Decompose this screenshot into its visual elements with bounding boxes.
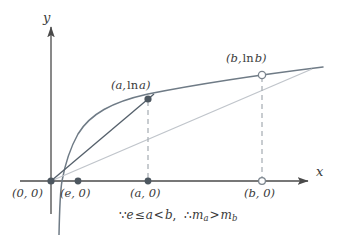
caption-e: e bbox=[127, 208, 134, 222]
paren-close: ) bbox=[262, 51, 267, 65]
y-axis-label: y bbox=[43, 10, 50, 25]
therefore-symbol: ∴ bbox=[184, 208, 192, 222]
slope-m-a-subscript: a bbox=[203, 213, 208, 223]
point-marker-e-axis bbox=[75, 178, 82, 185]
ln-argument-b: b bbox=[255, 51, 262, 65]
leq-symbol: ≤ bbox=[134, 208, 146, 222]
ln-operator: ln bbox=[242, 51, 255, 65]
point-label-b-curve: (b,lnb) bbox=[226, 51, 267, 65]
secant-line-b bbox=[51, 69, 312, 181]
comma: , bbox=[238, 51, 242, 65]
paren-close: ) bbox=[146, 78, 151, 92]
because-symbol: ∵ bbox=[119, 208, 127, 222]
tick-label-b: (b, 0) bbox=[244, 186, 275, 200]
caption-comma: , bbox=[173, 208, 177, 222]
lt-symbol: < bbox=[153, 208, 165, 222]
var-b: b bbox=[231, 51, 238, 65]
caption-a: a bbox=[146, 208, 153, 222]
tick-label-e: (e, 0) bbox=[60, 186, 90, 200]
tick-label-a: (a, 0) bbox=[130, 186, 160, 200]
secant-line-a bbox=[51, 94, 154, 181]
tick-label-origin: (0, 0) bbox=[12, 186, 43, 200]
point-marker-a-axis bbox=[145, 178, 152, 185]
ln-operator: ln bbox=[126, 78, 139, 92]
slope-m-a: m bbox=[192, 208, 203, 222]
point-marker-origin bbox=[47, 177, 54, 184]
slope-m-b-subscript: b bbox=[232, 213, 237, 223]
x-axis-label: x bbox=[316, 164, 323, 179]
point-marker-a-curve bbox=[144, 95, 151, 102]
figure-caption: ∵e≤a<b, ∴ma>mb bbox=[0, 208, 356, 223]
point-marker-b-axis bbox=[259, 178, 266, 185]
logarithm-secant-figure: y x (a,lna) (b,lnb) (0, 0) (e, 0) (a, 0)… bbox=[0, 0, 356, 235]
plot-canvas bbox=[0, 0, 356, 235]
point-label-a-curve: (a,lna) bbox=[111, 78, 150, 92]
caption-b: b bbox=[165, 208, 173, 222]
ln-argument-a: a bbox=[139, 78, 146, 92]
slope-m-b: m bbox=[221, 208, 232, 222]
point-marker-b-curve bbox=[258, 71, 265, 78]
gt-symbol: > bbox=[209, 208, 221, 222]
